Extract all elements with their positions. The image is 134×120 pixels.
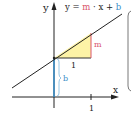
intercept-brace-icon: [57, 59, 61, 96]
diagram-canvas: y x 1 1 m b y = m · x + b: [0, 0, 134, 120]
equation-b: b: [116, 2, 122, 12]
equation: y = m · x + b: [64, 2, 122, 12]
equation-prefix: y =: [64, 2, 82, 12]
x-axis-arrow-icon: [111, 95, 119, 100]
y-axis-label: y: [42, 2, 49, 13]
intercept-point: [53, 57, 55, 59]
equation-m: m: [82, 2, 90, 12]
x-axis-label: x: [113, 85, 118, 95]
slope-triangle: [54, 33, 91, 58]
intercept-label: b: [63, 74, 68, 83]
bracket-decoration: [128, 11, 131, 91]
rise-label: m: [94, 40, 102, 49]
run-label: 1: [71, 61, 76, 70]
equation-mid: · x +: [90, 2, 115, 12]
y-axis-arrow-icon: [52, 2, 57, 10]
x-tick-label: 1: [89, 104, 94, 113]
